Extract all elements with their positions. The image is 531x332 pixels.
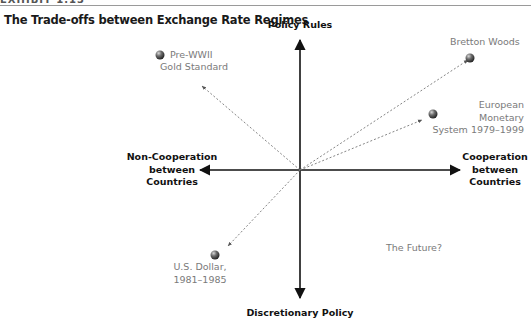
label-the-future: The Future? (386, 242, 442, 255)
marker-pre-wwii (156, 51, 165, 60)
axis-label-line: Cooperation (460, 151, 530, 164)
label-us-dollar: U.S. Dollar, 1981–1985 (165, 261, 235, 286)
label-line: Pre-WWII (170, 49, 213, 62)
label-line: System 1979–1999 (432, 124, 524, 137)
axis-label-line: between (460, 164, 530, 177)
axis-label-line: between (122, 164, 222, 177)
axis-label-discretionary-policy: Discretionary Policy (240, 307, 360, 320)
diagram-canvas (0, 0, 531, 332)
label-line: Gold Standard (160, 61, 228, 74)
label-pre-wwii-line2: Gold Standard (160, 61, 228, 74)
label-line: 1981–1985 (165, 274, 235, 287)
marker-us-dollar (211, 251, 220, 260)
axis-label-line: Countries (460, 176, 530, 189)
label-line: U.S. Dollar, (165, 261, 235, 274)
label-pre-wwii: Pre-WWII (170, 49, 213, 62)
label-bretton-woods: Bretton Woods (450, 36, 520, 49)
axis-label-line: Non-Cooperation (122, 151, 222, 164)
label-line: Monetary (432, 112, 524, 125)
label-ems: European Monetary System 1979–1999 (432, 99, 524, 137)
axis-label-cooperation: Cooperation between Countries (460, 151, 530, 189)
axis-label-line: Countries (122, 176, 222, 189)
marker-bretton-woods (466, 54, 475, 63)
axis-label-policy-rules: Policy Rules (262, 19, 338, 32)
axis-label-non-cooperation: Non-Cooperation between Countries (122, 151, 222, 189)
label-line: European (432, 99, 524, 112)
arrow-to-ems (300, 120, 422, 170)
arrow-to-us-dollar (228, 170, 300, 246)
